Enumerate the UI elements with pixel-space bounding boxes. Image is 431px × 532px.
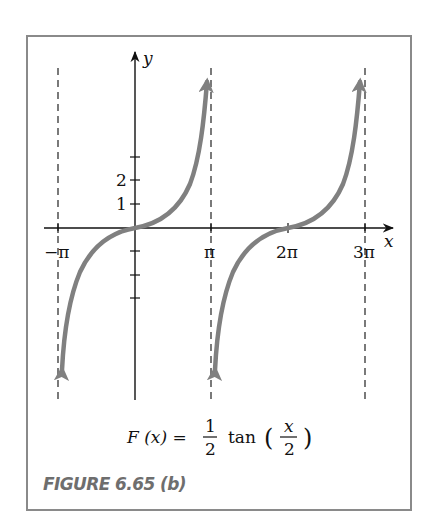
x-tick-label-neg-pi: −π <box>44 242 69 262</box>
formula-close-paren: ) <box>303 424 312 452</box>
figure-caption: FIGURE 6.65 (b) <box>43 474 186 494</box>
figure-frame <box>27 36 411 510</box>
formula-open-paren: ( <box>264 424 273 452</box>
formula-coef-den: 2 <box>205 439 216 459</box>
formula-lhs: F (x) = <box>126 427 187 447</box>
y-tick-label-2: 2 <box>116 170 127 190</box>
y-tick-label-1: 1 <box>116 194 127 214</box>
formula-arg-num: x <box>284 416 294 436</box>
y-axis-label: y <box>142 48 153 68</box>
x-tick-label-pi: π <box>204 242 215 262</box>
x-axis-label: x <box>384 231 394 251</box>
formula-func: tan <box>228 427 256 447</box>
formula-coef-num: 1 <box>205 416 216 436</box>
x-tick-label-3pi: 3π <box>353 242 375 262</box>
figure-6-65b: y x 2 1 −π π 2π 3π F (x) = 1 2 tan ( x 2… <box>0 0 431 532</box>
formula-arg-den: 2 <box>284 439 295 459</box>
x-tick-label-2pi: 2π <box>276 242 298 262</box>
